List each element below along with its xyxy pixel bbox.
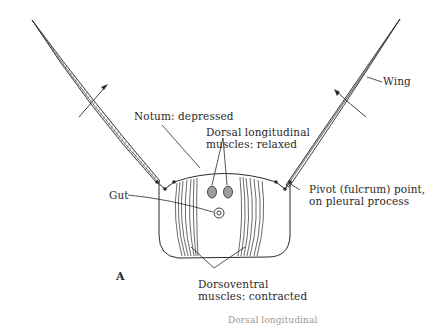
right-wing <box>286 19 400 187</box>
left-wing <box>32 20 160 183</box>
dorsoventral-label-line2: muscles: contracted <box>198 290 307 302</box>
gut <box>214 208 224 218</box>
right-dorsoventral-muscle <box>238 177 264 256</box>
wing-leader-line <box>367 77 382 82</box>
dorsoventral-label-line1: Dorsoventral <box>198 278 268 290</box>
dorsal-longitudinal-label-line2: muscles: relaxed <box>206 138 297 150</box>
dorsal-longitudinal-muscles <box>208 186 233 198</box>
pivot-label-line2: on pleural process <box>309 195 409 207</box>
gut-label: Gut <box>109 189 129 201</box>
clipped-bottom-label: Dorsal longitudinal <box>228 314 317 326</box>
pivot-label-line1: Pivot (fulcrum) point, <box>309 183 425 195</box>
wing-label: Wing <box>383 75 411 87</box>
left-dorsoventral-muscle <box>175 178 198 256</box>
dorsal-longitudinal-label-line1: Dorsal longitudinal <box>206 126 310 138</box>
notum-label: Notum: depressed <box>134 110 234 122</box>
panel-letter: A <box>116 271 125 283</box>
